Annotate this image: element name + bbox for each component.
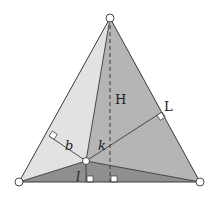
label-height: H <box>115 92 126 107</box>
label-b: b <box>65 138 73 153</box>
label-side: L <box>164 99 173 114</box>
viviani-triangle-diagram: H L b k l <box>0 0 218 201</box>
vertex-top <box>106 14 114 22</box>
vertex-right <box>196 178 204 186</box>
right-angle-marker-bottom <box>87 176 93 182</box>
right-angle-marker-height <box>111 176 117 182</box>
label-k: k <box>98 138 106 153</box>
interior-point <box>83 158 90 165</box>
vertex-left <box>15 178 23 186</box>
label-l: l <box>76 169 80 184</box>
